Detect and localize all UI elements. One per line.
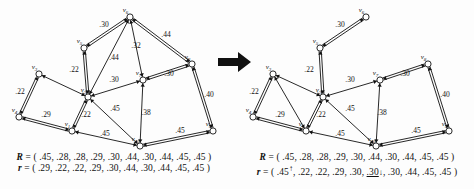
figure-canvas: .30.22.44.32.44.30.30.40.22.29.22.45.45.… bbox=[0, 0, 474, 189]
equation-value: .30 bbox=[349, 167, 361, 177]
node-label: v4 bbox=[12, 106, 18, 115]
edge-weight-label: .22 bbox=[304, 65, 314, 74]
left-equation-R: R = ( .45, .28, .28, .29, .30, .44, .30,… bbox=[0, 152, 228, 163]
equation-value: .22 bbox=[315, 167, 327, 177]
equation-value: .44 bbox=[402, 152, 414, 162]
equation-value: .45 bbox=[419, 152, 431, 162]
graph-node-v5[interactable]: v5 bbox=[313, 37, 323, 51]
right-equation-r: r = ( .45↑, .22, .22, .29, .30, .30↓, .3… bbox=[240, 163, 474, 178]
equation-value: .29 bbox=[91, 152, 103, 162]
equation-value: .45 bbox=[39, 152, 51, 162]
equation-value: .44 bbox=[368, 152, 380, 162]
equation-value: .28 bbox=[56, 152, 68, 162]
graph-node-v10[interactable]: v10 bbox=[367, 135, 379, 149]
graph-edge-v5-v2 bbox=[318, 51, 324, 94]
equation-open: = ( bbox=[261, 167, 277, 177]
node-label: v8 bbox=[421, 53, 427, 62]
equation-value: .44 bbox=[159, 152, 171, 162]
edge-weight-label: .45 bbox=[110, 104, 120, 113]
edge-weight-label: .40 bbox=[440, 90, 450, 99]
equation-value: .44 bbox=[125, 152, 137, 162]
equation-open: = ( bbox=[22, 163, 38, 173]
equation-value: .45 bbox=[439, 167, 451, 177]
right-graph-drawing: .30.22.30.30.40.22.29.22.45.45.38.45v1v2… bbox=[240, 0, 474, 158]
equation-value: .29 bbox=[89, 163, 101, 173]
equation-value: .30 bbox=[367, 167, 379, 177]
equation-value: .30 bbox=[351, 152, 363, 162]
equation-value: .45 bbox=[282, 152, 294, 162]
node-label: v8 bbox=[185, 53, 191, 62]
edge-weight-label: .22 bbox=[81, 110, 91, 119]
equation-value: .30 bbox=[106, 163, 118, 173]
graph-node-v10[interactable]: v10 bbox=[131, 135, 143, 149]
equation-value: .45 bbox=[192, 163, 204, 173]
equation-value: .22 bbox=[298, 167, 310, 177]
equation-value: .29 bbox=[332, 167, 344, 177]
edge-weight-label: .29 bbox=[41, 110, 51, 119]
edge-weight-label: .22 bbox=[316, 110, 326, 119]
equation-value: .28 bbox=[299, 152, 311, 162]
graph-edge-v3-v2 bbox=[276, 75, 320, 96]
edge-weight-label: .45 bbox=[335, 129, 345, 138]
edge-weight-label: .45 bbox=[175, 126, 185, 135]
equation-open: = ( bbox=[266, 152, 282, 162]
right-graph-panel: .30.22.30.30.40.22.29.22.45.45.38.45v1v2… bbox=[240, 0, 474, 189]
edge-weight-label: .38 bbox=[141, 108, 151, 117]
equation-value: .22 bbox=[55, 163, 67, 173]
equation-value: .44 bbox=[124, 163, 136, 173]
edge-weight-label: .45 bbox=[345, 104, 355, 113]
edge-weight-label: .30 bbox=[99, 20, 109, 29]
node-label: v4 bbox=[246, 106, 252, 115]
graph-node-v6[interactable]: v6 bbox=[123, 6, 133, 20]
equation-value: .22 bbox=[72, 163, 84, 173]
equation-value: .44 bbox=[158, 163, 170, 173]
equation-value: .45 bbox=[277, 167, 289, 177]
equation-value: .30 bbox=[385, 152, 397, 162]
edge-weight-label: .30 bbox=[345, 75, 355, 84]
graph-node-v3[interactable]: v3 bbox=[266, 63, 276, 77]
edge-weight-label: .30 bbox=[164, 69, 174, 78]
equation-separator: ) bbox=[204, 163, 210, 173]
equation-value: .45 bbox=[436, 152, 448, 162]
edge-weight-label: .30 bbox=[400, 69, 410, 78]
equation-value: .29 bbox=[334, 152, 346, 162]
left-graph-drawing: .30.22.44.32.44.30.30.40.22.29.22.45.45.… bbox=[0, 0, 228, 158]
edge-weight-label: .38 bbox=[377, 108, 387, 117]
equation-value: .45 bbox=[193, 152, 205, 162]
edge-weight-label: .32 bbox=[131, 41, 141, 50]
edge-weight-label: .44 bbox=[109, 53, 119, 62]
equation-separator: ) bbox=[206, 152, 212, 162]
edge-weight-label: .30 bbox=[335, 20, 345, 29]
node-label: v1 bbox=[65, 120, 71, 129]
node-label: v5 bbox=[313, 37, 319, 46]
node-label: v10 bbox=[367, 135, 376, 144]
right-equation-R: R = ( .45, .28, .28, .29, .30, .44, .30,… bbox=[240, 152, 474, 163]
equation-value: .30 bbox=[388, 167, 400, 177]
edge-weight-label: .45 bbox=[411, 126, 421, 135]
node-label: v10 bbox=[131, 135, 140, 144]
edge-weight-label: .29 bbox=[275, 110, 285, 119]
equation-value: .45 bbox=[422, 167, 434, 177]
equation-value: .30 bbox=[108, 152, 120, 162]
equation-value: .28 bbox=[73, 152, 85, 162]
graph-edge-v3-v2 bbox=[42, 75, 85, 96]
equation-value: .29 bbox=[38, 163, 50, 173]
edge-weight-label: .44 bbox=[161, 30, 171, 39]
edge-weight-label: .22 bbox=[69, 65, 79, 74]
right-equations: R = ( .45, .28, .28, .29, .30, .44, .30,… bbox=[240, 152, 474, 178]
equation-value: .44 bbox=[405, 167, 417, 177]
node-label: v7 bbox=[373, 69, 379, 78]
equation-value: .30 bbox=[141, 163, 153, 173]
left-graph-panel: .30.22.44.32.44.30.30.40.22.29.22.45.45.… bbox=[0, 0, 228, 189]
edge-weight-label: .40 bbox=[204, 90, 214, 99]
node-label: v6 bbox=[123, 6, 129, 15]
edge-weight-label: .30 bbox=[109, 75, 119, 84]
graph-node-v3[interactable]: v3 bbox=[32, 63, 42, 77]
left-equations: R = ( .45, .28, .28, .29, .30, .44, .30,… bbox=[0, 152, 228, 174]
graph-node-v5[interactable]: v5 bbox=[77, 37, 87, 51]
equation-open: = ( bbox=[23, 152, 39, 162]
node-label: v1 bbox=[299, 120, 305, 129]
node-label: v6 bbox=[359, 6, 365, 15]
graph-node-v6[interactable]: v6 bbox=[359, 6, 369, 20]
node-label: v3 bbox=[32, 63, 38, 72]
